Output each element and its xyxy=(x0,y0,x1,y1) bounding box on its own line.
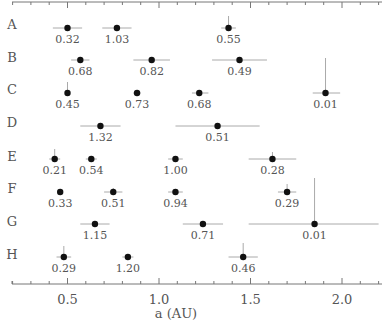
row-label: D xyxy=(7,115,17,130)
point-marker xyxy=(92,221,98,227)
point-marker xyxy=(225,25,231,31)
point-marker xyxy=(284,189,290,195)
point-value-label: 1.03 xyxy=(105,33,130,46)
point-value-label: 0.68 xyxy=(187,98,212,111)
point-value-label: 1.20 xyxy=(116,262,141,275)
point-value-label: 0.49 xyxy=(227,65,252,78)
point-marker xyxy=(196,90,202,96)
point-value-label: 0.82 xyxy=(139,65,164,78)
point-value-label: 1.32 xyxy=(88,131,113,144)
point-value-label: 0.68 xyxy=(68,65,93,78)
data-point: 0.33 xyxy=(48,189,73,210)
point-marker xyxy=(110,189,116,195)
data-point: 0.29 xyxy=(52,246,77,275)
x-tick-label: 1.5 xyxy=(240,292,261,307)
point-marker xyxy=(97,123,103,129)
data-point: 1.03 xyxy=(102,25,131,46)
point-value-label: 0.28 xyxy=(260,164,285,177)
plot-area: 0.51.01.52.0 A0.321.030.55B0.680.820.49C… xyxy=(0,0,387,328)
system-row-b: B0.680.820.49 xyxy=(7,50,267,78)
point-value-label: 0.29 xyxy=(275,197,300,210)
data-point: 0.68 xyxy=(187,90,212,111)
point-marker xyxy=(134,90,140,96)
point-marker xyxy=(236,57,242,63)
row-label: F xyxy=(7,181,16,196)
data-point: 1.15 xyxy=(80,221,109,242)
data-point: 0.32 xyxy=(53,25,82,46)
point-value-label: 0.46 xyxy=(231,262,256,275)
point-marker xyxy=(88,156,94,162)
system-row-g: G1.150.710.01 xyxy=(7,178,379,242)
point-marker xyxy=(322,90,328,96)
point-marker xyxy=(125,254,131,260)
point-value-label: 1.00 xyxy=(163,164,188,177)
point-marker xyxy=(51,156,57,162)
point-marker xyxy=(311,221,317,227)
point-value-label: 0.01 xyxy=(302,229,327,242)
row-label: E xyxy=(7,149,17,164)
data-point: 0.01 xyxy=(249,178,379,242)
data-point: 1.32 xyxy=(80,123,120,144)
system-row-d: D1.320.51 xyxy=(7,115,260,144)
data-point: 0.82 xyxy=(133,57,170,78)
point-marker xyxy=(214,123,220,129)
point-marker xyxy=(64,90,70,96)
point-value-label: 1.15 xyxy=(83,229,108,242)
data-point: 0.49 xyxy=(212,57,267,78)
row-label: C xyxy=(7,82,17,97)
data-point: 0.94 xyxy=(163,189,188,210)
point-marker xyxy=(172,189,178,195)
row-label: H xyxy=(6,247,17,262)
data-point: 0.71 xyxy=(183,221,223,242)
point-value-label: 0.71 xyxy=(191,229,216,242)
point-value-label: 0.73 xyxy=(125,98,150,111)
data-point: 0.28 xyxy=(249,152,297,177)
point-marker xyxy=(148,57,154,63)
x-tick-label: 1.0 xyxy=(149,292,170,307)
point-marker xyxy=(200,221,206,227)
data-point: 1.00 xyxy=(163,156,188,177)
row-label: B xyxy=(7,50,17,65)
point-value-label: 0.51 xyxy=(205,131,230,144)
data-point: 0.51 xyxy=(101,188,126,210)
x-axis-label: a (AU) xyxy=(155,306,197,321)
point-marker xyxy=(57,189,63,195)
system-row-h: H0.291.200.46 xyxy=(6,243,257,275)
point-marker xyxy=(61,254,67,260)
point-value-label: 0.01 xyxy=(313,98,338,111)
point-marker xyxy=(77,57,83,63)
data-point: 0.29 xyxy=(275,184,300,210)
point-value-label: 0.51 xyxy=(101,197,126,210)
point-value-label: 0.55 xyxy=(216,33,241,46)
point-value-label: 0.21 xyxy=(42,164,67,177)
data-point: 0.55 xyxy=(216,16,241,46)
data-point: 0.21 xyxy=(42,149,67,177)
data-rows: A0.321.030.55B0.680.820.49C0.450.730.680… xyxy=(6,16,378,275)
data-point: 0.73 xyxy=(125,90,150,111)
point-value-label: 0.94 xyxy=(163,197,188,210)
point-marker xyxy=(114,25,120,31)
point-marker xyxy=(240,254,246,260)
point-marker xyxy=(269,156,275,162)
point-value-label: 0.54 xyxy=(79,164,104,177)
data-point: 0.46 xyxy=(229,243,258,275)
row-label: G xyxy=(7,214,17,229)
data-point: 1.20 xyxy=(116,254,141,275)
system-row-c: C0.450.730.680.01 xyxy=(7,58,340,111)
data-point: 0.45 xyxy=(55,82,80,111)
point-value-label: 0.33 xyxy=(48,197,73,210)
point-value-label: 0.32 xyxy=(55,33,80,46)
data-point: 0.01 xyxy=(313,58,340,111)
system-row-f: F0.330.510.940.29 xyxy=(7,181,299,210)
system-row-e: E0.210.541.000.28 xyxy=(7,149,296,177)
data-point: 0.68 xyxy=(68,57,93,78)
point-value-label: 0.29 xyxy=(52,262,77,275)
point-value-label: 0.45 xyxy=(55,98,80,111)
planet-orbit-chart: 0.51.01.52.0 A0.321.030.55B0.680.820.49C… xyxy=(0,0,387,328)
row-label: A xyxy=(6,17,17,32)
system-row-a: A0.321.030.55 xyxy=(6,16,240,46)
point-marker xyxy=(172,156,178,162)
x-tick-label: 2.0 xyxy=(332,292,353,307)
point-marker xyxy=(64,25,70,31)
data-point: 0.54 xyxy=(79,156,104,177)
